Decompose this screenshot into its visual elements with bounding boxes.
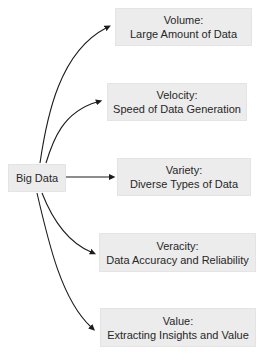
arrow-big-data-to-volume bbox=[40, 28, 106, 163]
node-velocity: Velocity: Speed of Data Generation bbox=[107, 83, 247, 121]
volume-description: Large Amount of Data bbox=[130, 27, 237, 41]
node-value: Value: Extracting Insights and Value bbox=[100, 308, 256, 347]
arrow-big-data-to-value bbox=[37, 193, 91, 327]
node-big-data: Big Data bbox=[8, 164, 66, 192]
veracity-title: Veracity: bbox=[156, 239, 198, 253]
velocity-description: Speed of Data Generation bbox=[113, 102, 241, 116]
node-volume: Volume: Large Amount of Data bbox=[115, 8, 252, 46]
velocity-title: Velocity: bbox=[157, 88, 198, 102]
volume-title: Volume: bbox=[164, 13, 204, 27]
diagram-canvas: Big Data Volume: Large Amount of Data Ve… bbox=[0, 0, 260, 362]
value-description: Extracting Insights and Value bbox=[107, 328, 249, 342]
arrow-big-data-to-velocity bbox=[46, 102, 97, 163]
veracity-description: Data Accuracy and Reliability bbox=[106, 253, 248, 267]
variety-description: Diverse Types of Data bbox=[130, 177, 238, 191]
node-variety: Variety: Diverse Types of Data bbox=[117, 158, 251, 196]
value-title: Value: bbox=[163, 314, 193, 328]
variety-title: Variety: bbox=[166, 163, 202, 177]
big-data-label: Big Data bbox=[16, 171, 58, 185]
node-veracity: Veracity: Data Accuracy and Reliability bbox=[99, 233, 256, 272]
